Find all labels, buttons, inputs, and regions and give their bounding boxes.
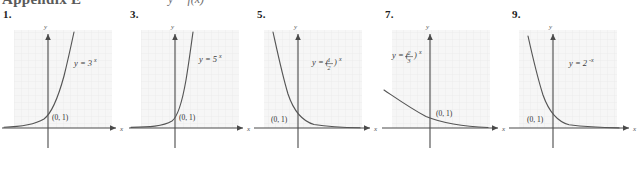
- figure-panel-7: 7. y x (0, 1) y = ( 2 3: [382, 0, 510, 169]
- y-axis-label: y: [170, 23, 175, 31]
- x-axis-arrow: [237, 125, 243, 131]
- x-axis-label: x: [119, 125, 124, 133]
- y-axis-label: y: [293, 23, 298, 31]
- x-axis-arrow: [110, 125, 116, 131]
- x-axis-label: x: [632, 125, 637, 133]
- svg-text:3: 3: [407, 58, 411, 64]
- x-axis-label: x: [501, 125, 506, 133]
- plot-area-7: y x (0, 1) y = ( 2 3 ) x: [382, 18, 510, 158]
- y-axis-label: y: [548, 23, 553, 31]
- plot-area-9: y x (0, 1) y = 2 -x: [509, 18, 637, 158]
- grid-panel: [519, 30, 617, 128]
- svg-text:y = 2: y = 2: [568, 58, 588, 68]
- svg-text:y = 5: y = 5: [198, 54, 217, 64]
- x-axis-arrow: [364, 125, 370, 131]
- x-axis-label: x: [246, 125, 251, 133]
- intercept-label: (0, 1): [179, 113, 196, 122]
- intercept-label: (0, 1): [271, 115, 288, 124]
- svg-text:x: x: [218, 53, 222, 59]
- plot-area-5: y x (0, 1) y = ( 1 2 ) x: [254, 18, 382, 158]
- figure-panel-3: 3. y x (0, 1) y = 5 x: [127, 0, 255, 169]
- plot-area-1: y x (0, 1) y = 3 x: [0, 18, 128, 158]
- svg-text:y = 3: y = 3: [73, 58, 92, 68]
- svg-text:1: 1: [328, 57, 331, 63]
- grid-panel: [264, 30, 362, 128]
- svg-text:): ): [333, 57, 337, 67]
- y-axis-label: y: [425, 23, 430, 31]
- figure-panel-1: 1. y x (0, 1) y = 3: [0, 0, 128, 169]
- svg-text:2: 2: [408, 50, 411, 56]
- svg-text:): ): [413, 50, 417, 60]
- x-axis-label: x: [373, 125, 378, 133]
- y-axis-label: y: [43, 23, 48, 31]
- svg-text:x: x: [93, 57, 97, 63]
- figure-panel-5: 5. y x (0, 1) y = ( 1 2: [254, 0, 382, 169]
- intercept-label: (0, 1): [52, 113, 69, 122]
- x-axis-arrow: [492, 125, 498, 131]
- svg-text:x: x: [418, 49, 422, 55]
- svg-text:x: x: [338, 56, 342, 62]
- intercept-label: (0, 1): [436, 109, 453, 118]
- svg-text:2: 2: [328, 65, 331, 71]
- figure-panel-9: 9. y x (0, 1) y = 2 -x: [509, 0, 637, 169]
- svg-text:-x: -x: [589, 57, 594, 63]
- x-axis-arrow: [623, 125, 629, 131]
- intercept-label: (0, 1): [527, 115, 544, 124]
- plot-area-3: y x (0, 1) y = 5 x: [127, 18, 255, 158]
